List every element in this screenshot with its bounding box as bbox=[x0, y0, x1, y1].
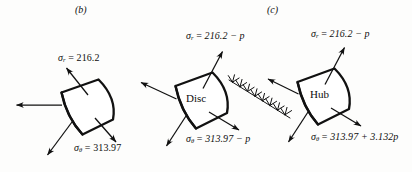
sigma-r-value-disc: 216.2 − p bbox=[205, 30, 245, 41]
hub-body-label: Hub bbox=[310, 88, 329, 100]
equals-glyph: = bbox=[196, 30, 202, 41]
sigma-subscript-r: r bbox=[316, 32, 319, 39]
sigma-theta-arrow-left-disc bbox=[167, 116, 187, 146]
panel-caption-b: (b) bbox=[75, 4, 87, 15]
sigma-subscript-theta: θ bbox=[191, 137, 194, 144]
sigma-r-label-hub: σr = 216.2 − p bbox=[311, 28, 370, 39]
sigma-theta-value-disc: 313.97 − p bbox=[205, 133, 250, 144]
stress-element-figure: (b) (c) σr = 216.2 σθ = 313.97 σr = 216.… bbox=[0, 0, 412, 172]
sigma-theta-label-b: σθ = 313.97 bbox=[74, 142, 121, 153]
sigma-r-arrow-left-hub bbox=[268, 79, 299, 94]
equals-glyph: = bbox=[321, 28, 327, 39]
equals-glyph: = bbox=[322, 131, 328, 142]
sigma-theta-arrow-left-hub bbox=[289, 112, 309, 142]
sigma-r-value-hub: 216.2 − p bbox=[330, 28, 370, 39]
equals-glyph: = bbox=[197, 133, 203, 144]
sigma-subscript-r: r bbox=[63, 56, 66, 63]
interference-hatch-line bbox=[228, 75, 291, 118]
sigma-subscript-theta: θ bbox=[79, 146, 82, 153]
sigma-r-label-b: σr = 216.2 bbox=[58, 52, 100, 63]
sigma-theta-label-hub: σθ = 313.97 + 3.132p bbox=[311, 131, 398, 142]
disc-body-label: Disc bbox=[186, 92, 206, 104]
equals-glyph: = bbox=[85, 142, 91, 153]
sigma-theta-value-hub: 313.97 + 3.132p bbox=[330, 131, 398, 142]
sigma-subscript-theta: θ bbox=[316, 135, 319, 142]
panel-caption-c: (c) bbox=[267, 4, 278, 15]
figure-drawing bbox=[0, 0, 412, 172]
sigma-subscript-r: r bbox=[191, 34, 194, 41]
sigma-theta-arrow-left-b bbox=[48, 122, 73, 155]
sigma-theta-label-disc: σθ = 313.97 − p bbox=[186, 133, 250, 144]
sigma-r-arrow-left-disc bbox=[141, 83, 177, 100]
sigma-theta-value-b: 313.97 bbox=[93, 142, 121, 153]
sigma-r-label-disc: σr = 216.2 − p bbox=[186, 30, 245, 41]
hatch-ticks bbox=[228, 75, 291, 115]
equals-glyph: = bbox=[68, 52, 74, 63]
sigma-r-value-b: 216.2 bbox=[77, 52, 100, 63]
